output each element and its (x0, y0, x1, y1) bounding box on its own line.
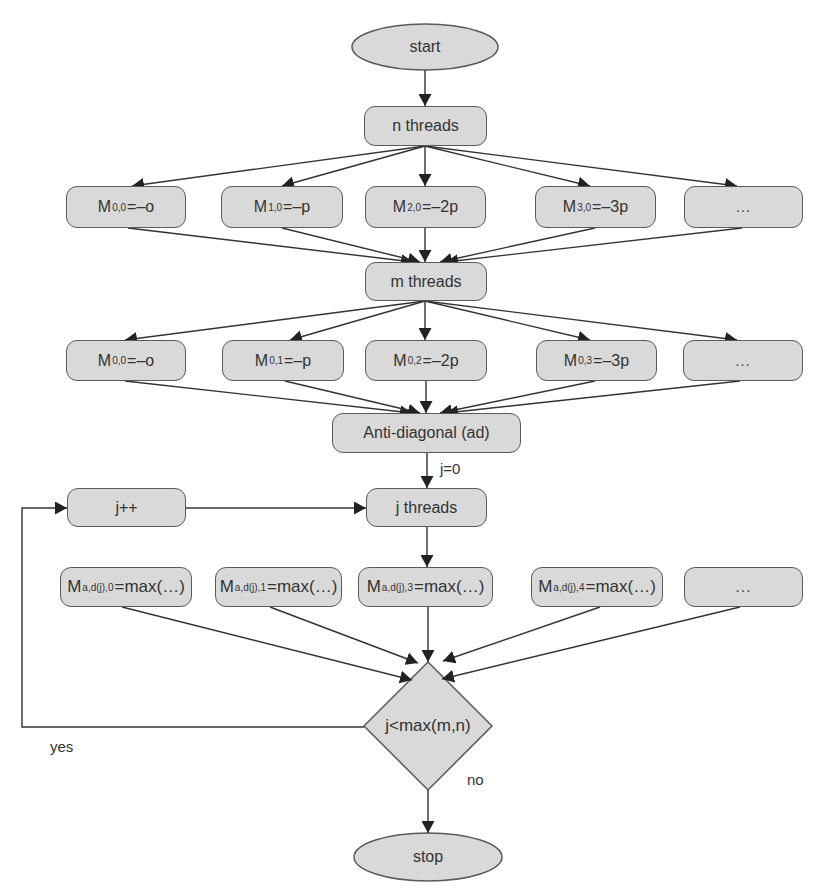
matrix-symbol: M (564, 352, 577, 370)
ellipsis-label: … (735, 198, 752, 216)
m-threads-label: m threads (390, 273, 461, 291)
j-threads-label: j threads (396, 499, 457, 517)
matrix-symbol: M (255, 352, 268, 370)
matrix-symbol: M (98, 198, 111, 216)
edge-row2-0-to-anti-diagonal (125, 381, 412, 413)
m-threads-node: m threads (365, 262, 487, 301)
edge-row3-3-to-decision (443, 607, 600, 661)
edge-row2-3-to-anti-diagonal (440, 381, 595, 413)
edge-row3-4-to-decision (442, 607, 740, 679)
start-label: start (409, 38, 440, 56)
stop-terminal: stop (354, 833, 502, 881)
matrix-index: a,d(j),0 (82, 582, 113, 593)
flowchart-canvas: start n threads M0,0=–o M1,0=–p M2,0=–2p… (0, 0, 825, 894)
row2-node-1: M0,1=–p (222, 340, 344, 381)
matrix-index: 0,0 (112, 202, 126, 213)
edge-row2-1-to-anti-diagonal (285, 381, 420, 413)
edge-row1-3-to-m-threads (440, 228, 595, 262)
edge-row1-4-to-m-threads (446, 228, 742, 262)
stop-label: stop (413, 848, 443, 866)
edge-n-threads-to-row1-0 (132, 146, 425, 186)
matrix-symbol: M (98, 352, 111, 370)
edge-n-threads-to-row1-3 (425, 146, 590, 186)
matrix-index: 2,0 (407, 202, 421, 213)
matrix-symbol: M (367, 577, 381, 597)
row3-node-1: Ma,d(j),1=max(…) (215, 567, 342, 607)
matrix-value: =–2p (422, 198, 458, 216)
anti-diagonal-label: Anti-diagonal (ad) (363, 424, 489, 442)
edge-row3-1-to-decision (270, 607, 418, 663)
start-terminal: start (352, 24, 498, 70)
row1-node-0: M0,0=–o (66, 186, 186, 228)
edge-row1-0-to-m-threads (128, 228, 413, 262)
matrix-symbol: M (393, 352, 406, 370)
edge-n-threads-to-row1-4 (425, 146, 737, 186)
ellipsis-label: … (735, 577, 753, 597)
matrix-symbol: M (254, 198, 267, 216)
j-increment-label: j++ (115, 499, 137, 517)
row3-node-0: Ma,d(j),0=max(…) (60, 567, 192, 607)
j-increment-node: j++ (67, 488, 186, 527)
edge-row3-0-to-decision (122, 607, 412, 680)
matrix-value: =max(…) (114, 577, 184, 597)
decision-node: j<max(m,n) (364, 710, 492, 742)
matrix-value: =–3p (593, 352, 629, 370)
row3-node-ellipsis: … (684, 567, 803, 607)
no-label: no (467, 771, 484, 788)
matrix-index: 0,2 (408, 355, 422, 366)
matrix-index: 0,1 (269, 355, 283, 366)
matrix-value: =max(…) (585, 577, 655, 597)
anti-diagonal-node: Anti-diagonal (ad) (332, 413, 521, 453)
row2-node-0: M0,0=–o (66, 340, 186, 381)
row1-node-ellipsis: … (684, 186, 803, 228)
matrix-value: =–p (283, 198, 310, 216)
row1-node-3: M3,0=–3p (535, 186, 656, 228)
row2-node-ellipsis: … (683, 340, 803, 381)
edge-m-threads-to-row2-0 (125, 301, 425, 340)
row1-node-1: M1,0=–p (221, 186, 343, 228)
matrix-symbol: M (67, 577, 81, 597)
matrix-value: =–3p (592, 198, 628, 216)
row1-node-2: M2,0=–2p (365, 186, 486, 228)
matrix-value: =–o (127, 352, 154, 370)
matrix-index: a,d(j),3 (382, 582, 413, 593)
matrix-value: =–o (127, 198, 154, 216)
matrix-index: a,d(j),1 (235, 582, 266, 593)
row3-node-3: Ma,d(j),4=max(…) (531, 567, 663, 607)
matrix-value: =–p (284, 352, 311, 370)
row3-node-2: Ma,d(j),3=max(…) (358, 567, 493, 607)
j-init-label: j=0 (440, 460, 460, 477)
row2-node-3: M0,3=–3p (536, 340, 657, 381)
matrix-symbol: M (393, 198, 406, 216)
matrix-index: 1,0 (268, 202, 282, 213)
n-threads-label: n threads (392, 117, 459, 135)
matrix-symbol: M (538, 577, 552, 597)
yes-label: yes (50, 738, 73, 755)
edge-m-threads-to-row2-3 (425, 301, 590, 340)
decision-label: j<max(m,n) (385, 716, 470, 736)
matrix-index: 0,0 (112, 355, 126, 366)
row2-node-2: M0,2=–2p (365, 340, 487, 381)
ellipsis-label: … (735, 352, 752, 370)
matrix-index: a,d(j),4 (553, 582, 584, 593)
matrix-symbol: M (220, 577, 234, 597)
matrix-value: =max(…) (414, 577, 484, 597)
matrix-value: =–2p (423, 352, 459, 370)
edge-row1-1-to-m-threads (282, 228, 420, 262)
edge-n-threads-to-row1-1 (282, 146, 425, 186)
matrix-symbol: M (563, 198, 576, 216)
matrix-index: 3,0 (577, 202, 591, 213)
edge-decision-yes-to-j-increment (22, 508, 364, 727)
edge-m-threads-to-row2-1 (290, 301, 425, 340)
edge-m-threads-to-row2-4 (425, 301, 737, 340)
j-threads-node: j threads (366, 488, 487, 527)
n-threads-node: n threads (364, 106, 487, 146)
matrix-index: 0,3 (578, 355, 592, 366)
edge-row2-4-to-anti-diagonal (446, 381, 740, 413)
matrix-value: =max(…) (267, 577, 337, 597)
